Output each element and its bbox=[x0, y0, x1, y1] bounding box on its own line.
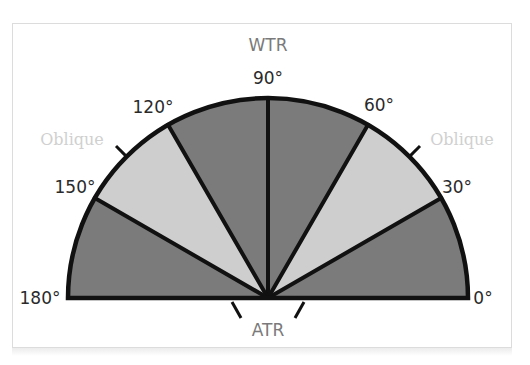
angle-label-0: 0° bbox=[473, 288, 492, 308]
angle-label-120: 120° bbox=[133, 97, 174, 117]
axis-semicircle-diagram: 90° 120° 60° 150° 30° 180° 0° WTR ATR Ob… bbox=[0, 0, 530, 365]
angle-label-180: 180° bbox=[20, 288, 61, 308]
tick-135 bbox=[116, 146, 127, 157]
category-label-oblique-left: Oblique bbox=[40, 130, 104, 149]
angle-label-90: 90° bbox=[253, 68, 283, 88]
category-label-atr: ATR bbox=[252, 320, 285, 340]
tick-atr-right bbox=[295, 302, 304, 318]
angle-label-60: 60° bbox=[364, 95, 394, 115]
tick-atr-left bbox=[232, 302, 241, 318]
category-label-oblique-right: Oblique bbox=[430, 130, 494, 149]
category-label-wtr: WTR bbox=[248, 35, 287, 55]
tick-45 bbox=[409, 146, 420, 157]
angle-label-150: 150° bbox=[55, 177, 96, 197]
angle-label-30: 30° bbox=[442, 177, 472, 197]
